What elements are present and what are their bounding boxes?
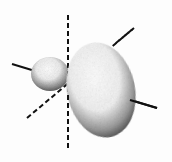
diagonal-axis-tip [116,28,134,43]
large-lobe [58,36,144,144]
orbital-diagram: Hybrid orbital (sp) lobes with coordinat… [0,0,172,162]
small-lobe [31,57,69,91]
orbital-figure [0,0,172,162]
